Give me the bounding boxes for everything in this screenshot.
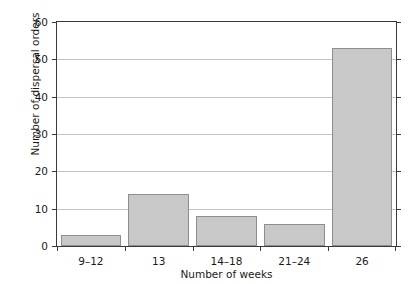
bar: [196, 216, 257, 246]
y-axis-tick-right: [396, 209, 401, 210]
x-axis-tick-label: 13: [152, 255, 165, 267]
x-axis-tick: [328, 246, 329, 251]
x-axis-title: Number of weeks: [56, 268, 397, 280]
x-axis-tick-label: 14–18: [211, 255, 243, 267]
y-axis-tick-label: 60: [35, 22, 48, 23]
y-axis-tick-right: [396, 134, 401, 135]
y-axis-tick: [52, 209, 57, 210]
y-axis-tick-label: 20: [35, 171, 48, 172]
y-axis-tick-label: 30: [35, 134, 48, 135]
bar-chart-figure: Number of dispersal orders 0102030405060…: [0, 0, 415, 284]
y-axis-tick-label: 50: [35, 59, 48, 60]
x-axis-tick: [395, 246, 396, 251]
y-axis-tick: [52, 171, 57, 172]
y-axis-tick-right: [396, 171, 401, 172]
x-axis-tick-label: 26: [355, 255, 368, 267]
y-axis-tick-right: [396, 59, 401, 60]
y-axis-tick: [52, 134, 57, 135]
bar: [61, 235, 122, 246]
clipped-title-text: [0, 0, 415, 3]
y-axis-tick: [52, 22, 57, 23]
x-axis-tick: [260, 246, 261, 251]
y-axis-tick-right: [396, 97, 401, 98]
y-axis-tick-right: [396, 22, 401, 23]
y-axis-tick-label: 40: [35, 97, 48, 98]
bar: [128, 194, 189, 246]
bar: [264, 224, 325, 246]
y-axis-tick-right: [396, 246, 401, 247]
bar: [332, 48, 393, 246]
y-axis-tick-label: 0: [41, 246, 48, 247]
x-axis-tick-label: 9–12: [78, 255, 103, 267]
plot-area: 0102030405060 9–121314–1821–2426: [56, 21, 397, 247]
y-axis-tick: [52, 59, 57, 60]
x-axis-tick: [193, 246, 194, 251]
x-axis-tick: [125, 246, 126, 251]
x-axis-tick: [57, 246, 58, 251]
y-axis-tick: [52, 97, 57, 98]
x-axis-tick-label: 21–24: [278, 255, 310, 267]
y-axis-tick-label: 10: [35, 209, 48, 210]
